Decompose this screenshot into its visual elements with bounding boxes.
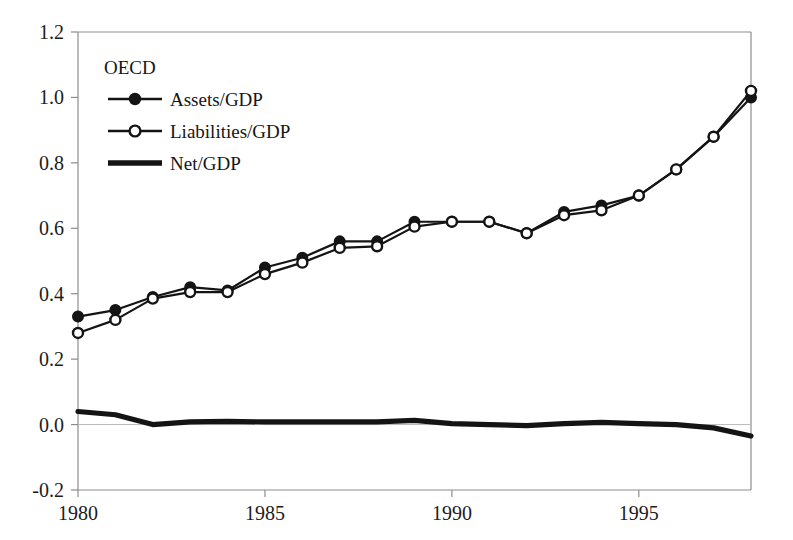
y-tick-label: 0.4 <box>39 283 64 305</box>
y-tick-label: 0.2 <box>39 348 64 370</box>
open-circle-icon <box>110 315 120 325</box>
open-circle-icon <box>372 241 382 251</box>
open-circle-icon <box>223 287 233 297</box>
y-tick-label: -0.2 <box>32 479 64 501</box>
y-tick-label: 0.6 <box>39 217 64 239</box>
x-tick-label: 1990 <box>432 502 472 524</box>
y-tick-label: 1.2 <box>39 21 64 43</box>
open-circle-icon <box>260 269 270 279</box>
open-circle-icon <box>746 86 756 96</box>
x-tick-label: 1995 <box>619 502 659 524</box>
open-circle-icon <box>522 228 532 238</box>
line-chart-figure: 1.21.00.80.60.40.20.0-0.2 19801985199019… <box>0 0 793 540</box>
y-tick-label: 1.0 <box>39 86 64 108</box>
legend-label-assets: Assets/GDP <box>170 89 263 110</box>
open-circle-icon <box>559 210 569 220</box>
x-tick-label: 1985 <box>245 502 285 524</box>
legend-title: OECD <box>104 57 156 78</box>
open-circle-icon <box>148 294 158 304</box>
open-circle-icon <box>185 287 195 297</box>
chart-container: 1.21.00.80.60.40.20.0-0.2 19801985199019… <box>0 0 793 540</box>
open-circle-icon <box>709 132 719 142</box>
x-tick-label: 1980 <box>58 502 98 524</box>
y-tick-label: 0.8 <box>39 152 64 174</box>
open-circle-icon <box>671 164 681 174</box>
open-circle-icon <box>410 222 420 232</box>
open-circle-icon <box>130 126 141 137</box>
filled-circle-icon <box>73 311 83 321</box>
open-circle-icon <box>447 217 457 227</box>
open-circle-icon <box>73 328 83 338</box>
legend-label-liabilities: Liabilities/GDP <box>170 121 290 142</box>
open-circle-icon <box>297 258 307 268</box>
open-circle-icon <box>596 205 606 215</box>
open-circle-icon <box>335 243 345 253</box>
chart-background <box>0 0 793 540</box>
open-circle-icon <box>634 191 644 201</box>
y-tick-label: 0.0 <box>39 414 64 436</box>
filled-circle-icon <box>130 94 141 105</box>
open-circle-icon <box>484 217 494 227</box>
legend-label-net: Net/GDP <box>170 153 241 174</box>
